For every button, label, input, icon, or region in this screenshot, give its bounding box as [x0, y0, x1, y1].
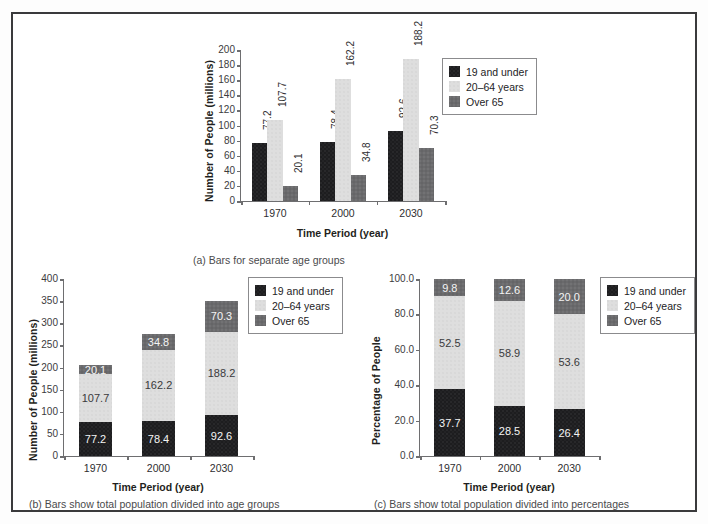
chart-c-ytick: 0.0 [400, 451, 420, 461]
chart-c-segment-value: 20.0 [558, 292, 579, 303]
chart-b-xtick-mark [64, 456, 66, 460]
legend-swatch-age20_64-icon [255, 300, 266, 311]
legend-swatch-over65-icon [449, 96, 460, 107]
legend-item-under19: 19 and under [607, 283, 686, 298]
chart-b-segment-value: 34.8 [148, 337, 169, 348]
chart-a-bar [283, 186, 298, 201]
chart-a-x-axis-label: Time Period (year) [240, 227, 445, 239]
chart-a-bar-value: 162.2 [346, 41, 356, 66]
chart-b-stacked-bar: 92.6188.270.3 [205, 301, 238, 456]
chart-a-ytick: 0 [229, 196, 241, 206]
chart-b-xtick-mark [190, 456, 192, 460]
legend-swatch-over65-icon [255, 315, 266, 326]
chart-b-plot-area: 05010015020025030035040019702000203077.2… [63, 279, 253, 457]
chart-b-segment-value: 107.7 [82, 393, 110, 404]
chart-a-y-axis-label: Number of People (millions) [203, 60, 215, 202]
legend-item-over65: Over 65 [607, 313, 686, 328]
chart-b-ytick: 0 [52, 451, 64, 461]
caption-a: (a) Bars for separate age groups [193, 254, 345, 266]
legend-item-age20_64: 20–64 years [255, 298, 334, 313]
legend-swatch-age20_64-icon [607, 300, 618, 311]
chart-b-xtick-mark [253, 456, 255, 460]
chart-a-xtick-mark [309, 201, 311, 205]
chart-a-ytick: 20 [224, 181, 241, 191]
chart-c-ytick: 100.0 [389, 274, 420, 284]
legend-label: Over 65 [272, 315, 309, 327]
caption-b: (b) Bars show total population divided i… [29, 498, 279, 510]
chart-c-xtick-label: 2030 [557, 462, 580, 474]
chart-b-xtick-label: 1970 [84, 462, 107, 474]
chart-a-bar [335, 79, 350, 201]
chart-c-segment-value: 28.5 [499, 426, 520, 437]
chart-b-y-axis-label: Number of People (millions) [27, 319, 39, 461]
chart-b-xtick-label: 2030 [210, 462, 233, 474]
chart-c-stacked-bar: 28.558.912.6 [494, 279, 525, 456]
chart-a-ytick: 60 [224, 151, 241, 161]
chart-c-ytick: 80.0 [395, 309, 420, 319]
chart-b-xtick-label: 2000 [147, 462, 170, 474]
chart-c-plot-area: 0.020.040.060.080.0100.019702000203037.7… [419, 279, 599, 457]
legend-item-under19: 19 and under [449, 64, 528, 79]
chart-c-xtick-mark [599, 456, 601, 460]
legend-label: 20–64 years [272, 300, 330, 312]
chart-c-x-axis-label: Time Period (year) [419, 481, 599, 493]
chart-a-bar [388, 131, 403, 201]
chart-panel-b: Number of People (millions) 050100150200… [17, 269, 362, 494]
chart-b-ytick: 250 [41, 340, 64, 350]
chart-b-ytick: 100 [41, 407, 64, 417]
chart-b-ytick: 400 [41, 274, 64, 284]
chart-a-xtick-mark [241, 201, 243, 205]
chart-b-ytick: 350 [41, 296, 64, 306]
chart-panel-c: Percentage of People 0.020.040.060.080.0… [362, 269, 702, 494]
chart-b-x-axis-label: Time Period (year) [63, 481, 253, 493]
legend-swatch-age20_64-icon [449, 81, 460, 92]
legend-label: 19 and under [272, 285, 334, 297]
chart-a-bar [252, 143, 267, 201]
legend-label: Over 65 [624, 315, 661, 327]
chart-c-xtick-mark [480, 456, 482, 460]
chart-c-segment-value: 58.9 [499, 348, 520, 359]
chart-b-stacked-bar: 77.2107.720.1 [79, 365, 112, 456]
legend-swatch-under19-icon [255, 285, 266, 296]
chart-a-bar [419, 148, 434, 201]
chart-a-ytick: 80 [224, 136, 241, 146]
chart-c-y-axis-label: Percentage of People [370, 336, 382, 445]
legend-item-age20_64: 20–64 years [607, 298, 686, 313]
chart-c-ytick: 40.0 [395, 380, 420, 390]
chart-a-legend: 19 and under20–64 yearsOver 65 [442, 58, 537, 115]
chart-a-bar-value: 70.3 [430, 115, 440, 134]
chart-a-bar [320, 142, 335, 201]
chart-a-bar [351, 175, 366, 201]
chart-a-plot-area: 0204060801001201401601802001970200020307… [240, 50, 445, 202]
chart-c-segment-value: 26.4 [558, 428, 579, 439]
chart-c-ytick: 60.0 [395, 345, 420, 355]
chart-c-ytick: 20.0 [395, 416, 420, 426]
chart-a-bar-value: 34.8 [362, 142, 372, 161]
legend-label: 20–64 years [466, 81, 524, 93]
chart-b-ytick: 200 [41, 363, 64, 373]
legend-label: 19 and under [466, 66, 528, 78]
chart-a-bar-value: 188.2 [414, 21, 424, 46]
chart-a-ytick: 160 [218, 75, 241, 85]
legend-item-over65: Over 65 [255, 313, 334, 328]
chart-b-segment-value: 70.3 [211, 311, 232, 322]
chart-panel-a: Number of People (millions) 020406080100… [193, 22, 573, 252]
chart-c-stacked-bar: 26.453.620.0 [554, 279, 585, 456]
chart-b-segment-value: 92.6 [211, 431, 232, 442]
chart-a-xtick-mark [377, 201, 379, 205]
chart-a-bar-value: 107.7 [278, 82, 288, 107]
chart-a-xtick-label: 2030 [399, 207, 422, 219]
chart-c-xtick-mark [420, 456, 422, 460]
chart-a-ytick: 140 [218, 90, 241, 100]
chart-c-segment-value: 52.5 [439, 338, 460, 349]
chart-c-segment-value: 53.6 [558, 357, 579, 368]
chart-a-xtick-mark [445, 201, 447, 205]
legend-item-over65: Over 65 [449, 94, 528, 109]
chart-c-segment-value: 9.8 [442, 283, 457, 294]
chart-a-xtick-label: 2000 [331, 207, 354, 219]
chart-c-legend: 19 and under20–64 yearsOver 65 [600, 277, 695, 334]
chart-a-bar [267, 120, 282, 201]
chart-a-ytick: 180 [218, 60, 241, 70]
chart-a-ytick: 200 [218, 45, 241, 55]
chart-c-segment-value: 12.6 [499, 285, 520, 296]
